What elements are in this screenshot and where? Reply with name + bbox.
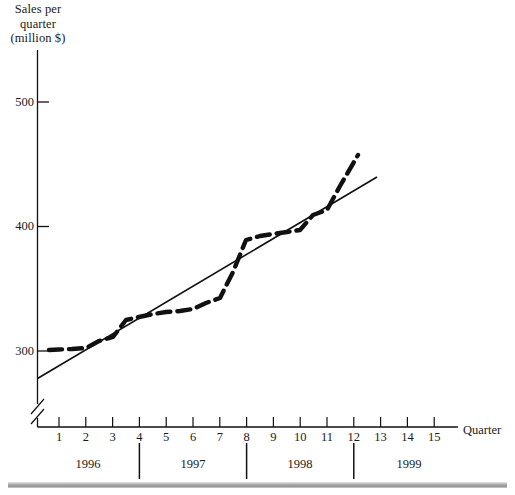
- x-tick-label-14: 14: [397, 430, 417, 445]
- x-tick-label-13: 13: [371, 430, 391, 445]
- x-tick-marks: [59, 417, 434, 427]
- x-tick-label-2: 2: [76, 430, 96, 445]
- year-label-1999: 1999: [379, 457, 439, 472]
- x-axis-title: Quarter: [463, 423, 501, 438]
- year-label-1998: 1998: [270, 457, 330, 472]
- x-tick-label-1: 1: [49, 430, 69, 445]
- y-tick-label-500: 500: [0, 95, 34, 110]
- x-tick-label-10: 10: [290, 430, 310, 445]
- x-tick-label-3: 3: [103, 430, 123, 445]
- actual-sales-series: [49, 155, 358, 350]
- plot-area: [0, 0, 515, 495]
- x-tick-label-7: 7: [210, 430, 230, 445]
- x-tick-label-5: 5: [156, 430, 176, 445]
- x-tick-label-4: 4: [129, 430, 149, 445]
- x-tick-label-9: 9: [263, 430, 283, 445]
- x-tick-label-11: 11: [317, 430, 337, 445]
- year-label-1997: 1997: [163, 457, 223, 472]
- y-tick-label-400: 400: [0, 219, 34, 234]
- x-tick-label-15: 15: [424, 430, 444, 445]
- x-tick-label-8: 8: [237, 430, 257, 445]
- y-tick-label-300: 300: [0, 344, 34, 359]
- bottom-rule-divider: [8, 482, 507, 488]
- x-tick-label-12: 12: [344, 430, 364, 445]
- x-tick-label-6: 6: [183, 430, 203, 445]
- chart-container: Sales per quarter (million $): [0, 0, 515, 495]
- year-label-1996: 1996: [58, 457, 118, 472]
